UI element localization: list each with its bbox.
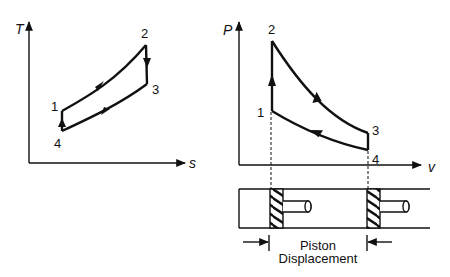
- v-axis-label: v: [428, 159, 436, 175]
- displacement-dimension: Piston Displacement: [243, 235, 392, 266]
- s-axis-label: s: [189, 155, 196, 171]
- ts-point-3-label: 3: [152, 82, 159, 97]
- piston-tdc: [270, 189, 311, 228]
- t-axis-label: T: [15, 21, 25, 37]
- ts-point-4-label: 4: [54, 136, 61, 151]
- ts-process-1-2: [62, 45, 146, 111]
- caption-displacement: Displacement: [279, 251, 358, 266]
- pv-point-3-label: 3: [372, 123, 379, 138]
- p-axis-label: P: [223, 22, 233, 38]
- ts-diagram: T s 1 2 3 4: [15, 21, 196, 171]
- pv-point-1-label: 1: [257, 105, 264, 120]
- pv-diagram: P v 1 2 3 4: [223, 22, 436, 190]
- pv-point-4-label: 4: [372, 152, 379, 167]
- ts-point-1-label: 1: [51, 99, 58, 114]
- arrow-icon: [143, 58, 151, 68]
- cylinder: [239, 189, 430, 228]
- otto-cycle-figure: T s 1 2 3 4 P v 1 2 3 4: [0, 0, 450, 277]
- arrow-icon: [268, 74, 276, 86]
- pv-point-2-label: 2: [268, 22, 275, 37]
- piston-bdc: [367, 189, 409, 228]
- arrow-icon: [58, 118, 66, 127]
- ts-point-2-label: 2: [141, 26, 148, 41]
